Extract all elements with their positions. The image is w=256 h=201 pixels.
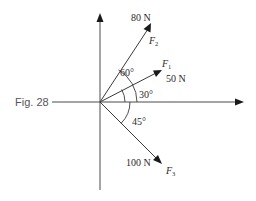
force-vector-f3: 100 N F3 — [100, 102, 175, 177]
angle-arc-30 — [122, 90, 125, 103]
f2-label: F2 — [148, 35, 158, 47]
x-axis — [100, 99, 244, 106]
f2-arrowhead-icon — [144, 23, 152, 33]
angle-label-60: 60° — [120, 67, 134, 78]
f3-label: F3 — [165, 165, 175, 177]
force-diagram: Fig. 28 80 N F2 F1 50 N 100 N F3 60° 30° — [0, 0, 256, 201]
angle-label-45: 45° — [132, 116, 146, 127]
angle-label-30: 30° — [139, 89, 153, 100]
f1-label: F1 — [161, 58, 171, 70]
f2-magnitude: 80 N — [131, 12, 151, 23]
figure-label: Fig. 28 — [15, 96, 49, 108]
x-axis-arrow-icon — [235, 99, 244, 106]
f3-magnitude: 100 N — [126, 157, 151, 168]
f1-magnitude: 50 N — [166, 73, 186, 84]
y-axis-arrow-icon — [97, 13, 104, 22]
angle-arc-45 — [121, 102, 130, 123]
